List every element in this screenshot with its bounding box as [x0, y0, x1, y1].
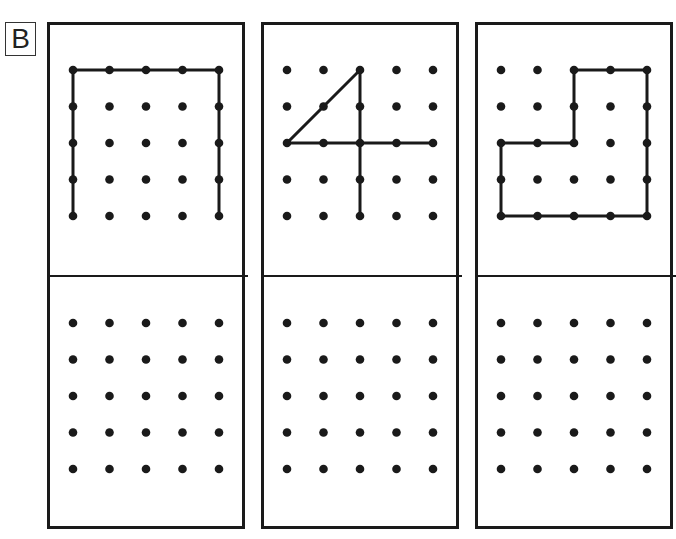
grid-dot-bottom [319, 355, 328, 364]
grid-dot-bottom [215, 465, 224, 474]
dot-grid-figure [50, 25, 248, 532]
grid-dot-top [319, 102, 328, 111]
grid-dot-top [105, 175, 114, 184]
grid-dot-bottom [497, 428, 506, 437]
grid-dot-top [429, 66, 438, 75]
panel-number-four [261, 22, 459, 529]
grid-dot-top [392, 66, 401, 75]
grid-dot-top [392, 212, 401, 221]
grid-dot-top [643, 102, 652, 111]
grid-dot-top [178, 102, 187, 111]
grid-dot-top [570, 175, 579, 184]
grid-dot-top [392, 139, 401, 148]
grid-dot-top [215, 139, 224, 148]
grid-dot-bottom [570, 355, 579, 364]
grid-dot-bottom [429, 392, 438, 401]
grid-dot-bottom [643, 319, 652, 328]
grid-dot-bottom [142, 355, 151, 364]
grid-dot-top [392, 175, 401, 184]
panel-open-rectangle [47, 22, 245, 529]
grid-dot-bottom [142, 319, 151, 328]
grid-dot-top [606, 102, 615, 111]
grid-dot-bottom [178, 355, 187, 364]
grid-dot-bottom [497, 392, 506, 401]
grid-dot-top [606, 139, 615, 148]
grid-dot-top [497, 139, 506, 148]
section-label: B [5, 22, 36, 56]
grid-dot-bottom [392, 428, 401, 437]
grid-dot-top [142, 102, 151, 111]
grid-dot-bottom [69, 355, 78, 364]
grid-dot-top [533, 102, 542, 111]
grid-dot-bottom [215, 355, 224, 364]
grid-dot-bottom [319, 465, 328, 474]
grid-dot-top [215, 212, 224, 221]
grid-dot-bottom [497, 355, 506, 364]
grid-dot-top [178, 212, 187, 221]
grid-dot-top [643, 212, 652, 221]
grid-dot-top [606, 175, 615, 184]
grid-dot-top [606, 212, 615, 221]
grid-dot-bottom [533, 392, 542, 401]
panel-l-shape [475, 22, 673, 529]
grid-dot-bottom [533, 428, 542, 437]
grid-dot-top [533, 139, 542, 148]
grid-dot-bottom [392, 465, 401, 474]
grid-dot-top [215, 175, 224, 184]
grid-dot-top [283, 139, 292, 148]
grid-dot-bottom [319, 428, 328, 437]
grid-dot-top [533, 66, 542, 75]
grid-dot-bottom [533, 319, 542, 328]
grid-dot-bottom [283, 319, 292, 328]
grid-dot-top [392, 102, 401, 111]
grid-dot-bottom [606, 355, 615, 364]
grid-dot-top [105, 102, 114, 111]
grid-dot-top [142, 175, 151, 184]
grid-dot-top [497, 212, 506, 221]
grid-dot-bottom [178, 319, 187, 328]
grid-dot-top [429, 175, 438, 184]
grid-dot-bottom [69, 465, 78, 474]
grid-dot-top [606, 66, 615, 75]
grid-dot-top [356, 212, 365, 221]
grid-dot-top [69, 212, 78, 221]
grid-dot-top [429, 102, 438, 111]
grid-dot-bottom [142, 428, 151, 437]
grid-dot-bottom [606, 392, 615, 401]
grid-dot-bottom [105, 319, 114, 328]
grid-dot-top [570, 212, 579, 221]
grid-dot-bottom [105, 428, 114, 437]
grid-dot-top [69, 139, 78, 148]
grid-dot-bottom [105, 392, 114, 401]
grid-dot-top [283, 102, 292, 111]
grid-dot-top [429, 139, 438, 148]
grid-dot-bottom [319, 392, 328, 401]
grid-dot-bottom [570, 465, 579, 474]
grid-dot-bottom [643, 428, 652, 437]
grid-dot-bottom [643, 355, 652, 364]
grid-dot-top [429, 212, 438, 221]
grid-dot-bottom [283, 465, 292, 474]
grid-dot-top [570, 66, 579, 75]
grid-dot-bottom [643, 392, 652, 401]
grid-dot-bottom [178, 392, 187, 401]
grid-dot-bottom [319, 319, 328, 328]
grid-dot-bottom [356, 319, 365, 328]
grid-dot-top [69, 66, 78, 75]
grid-dot-bottom [429, 465, 438, 474]
grid-dot-bottom [178, 428, 187, 437]
grid-dot-bottom [392, 392, 401, 401]
grid-dot-bottom [497, 319, 506, 328]
grid-dot-bottom [533, 355, 542, 364]
grid-dot-bottom [283, 355, 292, 364]
grid-dot-bottom [215, 428, 224, 437]
grid-dot-top [142, 66, 151, 75]
grid-dot-top [142, 139, 151, 148]
grid-dot-top [319, 175, 328, 184]
grid-dot-bottom [69, 319, 78, 328]
grid-dot-bottom [606, 428, 615, 437]
grid-dot-top [178, 66, 187, 75]
grid-dot-bottom [570, 392, 579, 401]
grid-dot-bottom [283, 428, 292, 437]
grid-dot-bottom [429, 319, 438, 328]
